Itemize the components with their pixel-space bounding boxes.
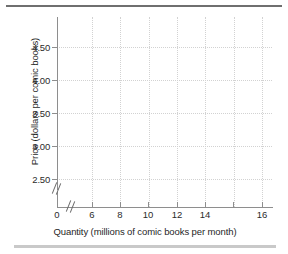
gridline-horizontal xyxy=(57,47,272,49)
y-axis-tick xyxy=(52,47,58,48)
gridline-horizontal xyxy=(57,80,272,82)
x-axis-tick-label: 14 xyxy=(195,209,215,220)
x-axis-tick xyxy=(148,202,149,208)
x-axis-tick xyxy=(120,202,121,208)
y-axis-tick xyxy=(52,80,58,81)
x-axis-tick-label: 8 xyxy=(110,209,130,220)
gridline-horizontal xyxy=(57,146,272,148)
x-axis-tick xyxy=(233,202,234,208)
x-axis-tick xyxy=(205,202,206,208)
plot-area xyxy=(57,17,272,207)
y-axis-tick xyxy=(52,113,58,114)
x-axis-tick-label: 10 xyxy=(138,209,158,220)
gridline-vertical xyxy=(262,17,264,207)
gridline-horizontal xyxy=(57,113,272,115)
gridline-horizontal xyxy=(57,179,272,181)
x-axis-tick xyxy=(177,202,178,208)
x-axis-tick-label: 6 xyxy=(82,209,102,220)
x-axis-break-icon xyxy=(64,200,78,213)
chart-figure: 4.50 4.00 3.50 3.00 2.50 0 6 8 10 12 14 … xyxy=(0,0,288,254)
gridline-vertical xyxy=(205,17,207,207)
gridline-vertical xyxy=(92,17,94,207)
x-axis-tick xyxy=(262,202,263,208)
x-axis-line xyxy=(57,207,273,208)
x-axis-tick xyxy=(92,202,93,208)
gridline-vertical xyxy=(234,17,236,207)
y-axis-tick xyxy=(52,179,58,180)
y-axis-break-icon xyxy=(51,182,64,196)
gridline-vertical xyxy=(120,17,122,207)
y-axis-line xyxy=(57,17,58,190)
y-axis-tick xyxy=(52,146,58,147)
x-axis-tick-label: 16 xyxy=(252,209,272,220)
gridline-vertical xyxy=(149,17,151,207)
x-axis-tick-label: 12 xyxy=(167,209,187,220)
gridline-vertical xyxy=(177,17,179,207)
bottom-divider-rule xyxy=(14,245,276,248)
y-axis-title: Price (dollars per comic books) xyxy=(29,7,40,197)
x-axis-title: Quantity (millions of comic books per mo… xyxy=(14,226,276,237)
